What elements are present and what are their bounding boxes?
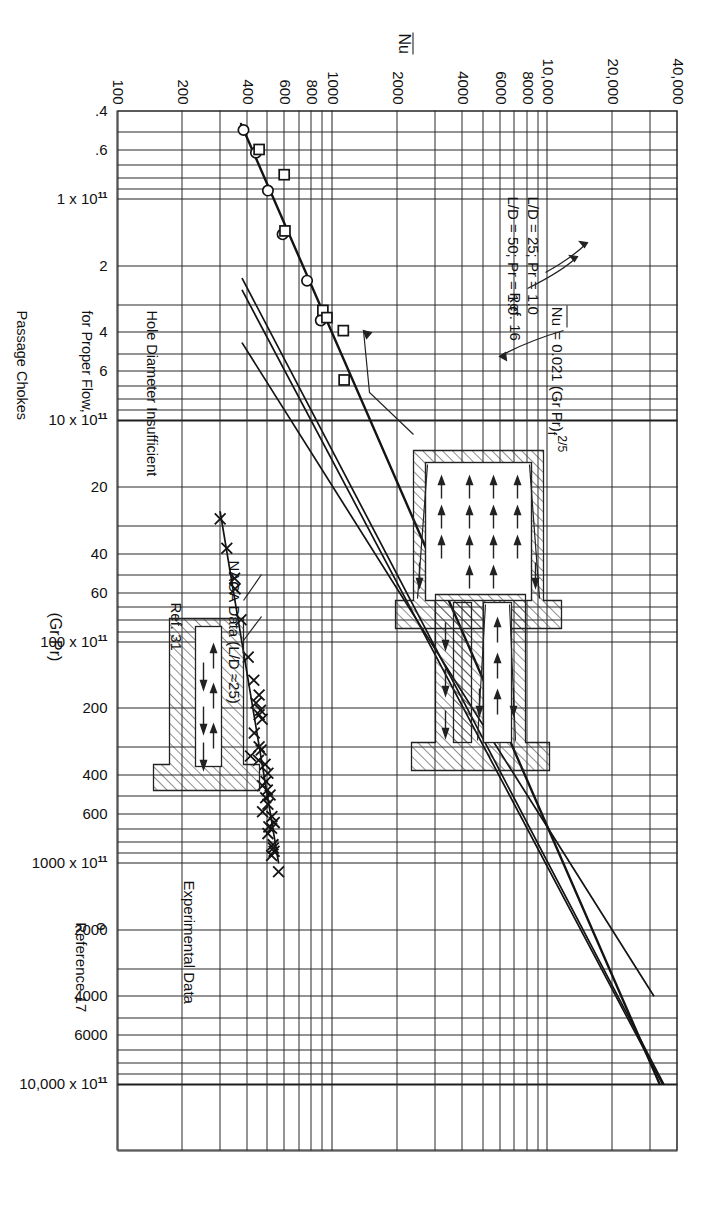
x-axis-title: (Gr Pr): [45, 612, 63, 661]
x-tick-label: 4: [99, 323, 107, 340]
x-tick-label: 1 x 1011: [56, 190, 107, 207]
data-point-circle: [262, 185, 272, 195]
choke-line3: Passage Chokes: [9, 310, 31, 476]
x-tick-label: .4: [94, 102, 107, 119]
x-tick-label: 2: [99, 256, 107, 273]
y-tick-label: 10,000: [539, 56, 556, 104]
data-point-cross: [256, 713, 267, 724]
x-tick-label: 10 x 1011: [48, 411, 107, 428]
x-tick-label: 200: [82, 699, 107, 716]
fit-line: [242, 343, 653, 996]
y-tick-label: 4000: [454, 56, 471, 104]
data-point-cross: [273, 866, 284, 877]
x-tick-label: 400: [82, 765, 107, 782]
x-tick-label: 60: [90, 583, 107, 600]
x-tick-label: 600: [82, 804, 107, 821]
choke-line2: for Proper Flow,: [75, 310, 97, 476]
x-tick-label: 10,000 x 1011: [19, 1075, 107, 1092]
fit-line: [242, 290, 662, 1083]
data-point-cross: [253, 689, 264, 700]
y-tick-label: 8000: [519, 56, 536, 104]
data-point-square: [279, 225, 289, 235]
data-point-square: [339, 374, 349, 384]
y-tick-label: 40,000: [669, 56, 686, 104]
data-point-cross: [248, 674, 259, 685]
y-axis-title: Nu: [394, 32, 413, 54]
data-point-square: [254, 144, 264, 154]
y-tick-label: 1000: [324, 56, 341, 104]
fit-line: [241, 123, 659, 1083]
data-curves: [117, 110, 677, 1150]
data-point-cross: [257, 806, 268, 817]
data-point-square: [338, 325, 348, 335]
data-point-circle: [238, 124, 248, 134]
data-point-cross: [259, 758, 270, 769]
data-point-cross: [214, 513, 225, 524]
plot-area: [117, 110, 677, 1150]
x-tick-label: 1000 x 1011: [31, 854, 107, 871]
log-log-chart-figure: .4.61 x 101124610 x 1011204060100 x 1011…: [0, 0, 713, 1219]
y-tick-label: 800: [303, 56, 320, 104]
x-tick-label: 2000: [74, 920, 107, 937]
y-tick-label: 400: [239, 56, 256, 104]
figure-rotation-wrapper: .4.61 x 101124610 x 1011204060100 x 1011…: [0, 0, 713, 1219]
data-point-cross: [229, 572, 240, 583]
fit-line: [242, 278, 663, 1083]
data-point-cross: [235, 614, 246, 625]
legend-item-1: □ Reference 9: [0, 880, 4, 1020]
y-tick-label: 2000: [389, 56, 406, 104]
y-tick-label: 6000: [492, 56, 509, 104]
x-tick-label: 40: [90, 544, 107, 561]
data-point-cross: [229, 583, 240, 594]
data-point-square: [279, 169, 289, 179]
x-tick-label: .6: [94, 140, 107, 157]
data-point-circle: [301, 275, 311, 285]
y-tick-label: 600: [276, 56, 293, 104]
x-tick-label: 20: [90, 478, 107, 495]
x-tick-label: 6: [99, 362, 107, 379]
x-tick-label: 6000: [74, 1026, 107, 1043]
data-point-square: [321, 312, 331, 322]
y-tick-label: 200: [174, 56, 191, 104]
x-tick-label: 4000: [74, 987, 107, 1004]
y-tick-label: 100: [109, 56, 126, 104]
y-tick-label: 20,000: [604, 56, 621, 104]
fit-line: [220, 511, 278, 862]
